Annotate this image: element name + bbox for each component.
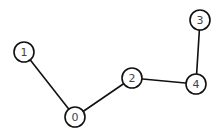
node-label: 2 [129, 72, 136, 85]
node-label: 3 [197, 14, 204, 27]
node-0: 0 [65, 107, 85, 127]
edge-1-0 [24, 52, 75, 117]
node-label: 4 [193, 78, 200, 91]
edges [24, 20, 200, 117]
node-3: 3 [190, 10, 210, 30]
node-4: 4 [186, 74, 206, 94]
graph-diagram: 01234 [0, 0, 224, 135]
node-1: 1 [14, 42, 34, 62]
node-label: 0 [72, 111, 79, 124]
nodes: 01234 [14, 10, 210, 127]
node-2: 2 [122, 68, 142, 88]
node-label: 1 [21, 46, 28, 59]
